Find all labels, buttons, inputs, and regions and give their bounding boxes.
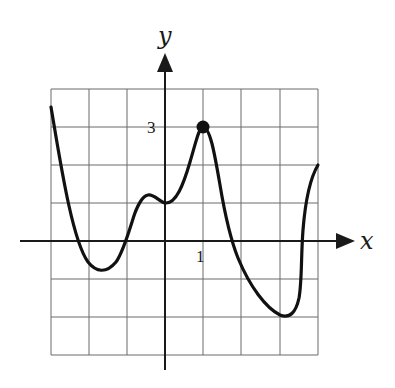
x-axis-arrow-icon [336, 233, 355, 249]
x-axis [20, 233, 355, 249]
x-axis-label: x [360, 227, 374, 255]
y-axis-arrow-icon [157, 53, 173, 72]
function-curve [51, 107, 318, 316]
function-graph: x y 1 3 [0, 0, 395, 388]
highlighted-point [197, 121, 210, 134]
y-tick-label-3: 3 [147, 118, 156, 137]
x-tick-label-1: 1 [196, 247, 205, 266]
y-axis [157, 53, 173, 370]
y-axis-label: y [157, 22, 172, 50]
